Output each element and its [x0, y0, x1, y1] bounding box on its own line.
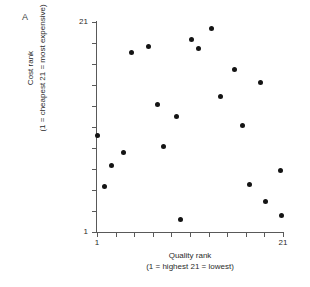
data-point [240, 123, 245, 128]
data-point [129, 50, 134, 55]
y-axis-tick [92, 64, 96, 65]
y-axis-tick [92, 190, 96, 191]
x-axis-tick [116, 233, 117, 237]
x-axis-tick [227, 233, 228, 237]
scatter-plot-figure: A 21 1 1 21 Cost rank (1 = cheapest 21 =… [0, 0, 310, 287]
data-point [174, 114, 179, 119]
data-point [95, 133, 100, 138]
data-point [218, 94, 223, 99]
data-point [146, 44, 151, 49]
y-axis-tick [92, 232, 96, 233]
x-axis-tick [246, 233, 247, 237]
x-axis-tick-label-min: 1 [87, 238, 107, 247]
y-axis-tick [92, 43, 96, 44]
y-axis-tick [92, 106, 96, 107]
y-axis-tick [92, 169, 96, 170]
data-point [247, 182, 252, 187]
x-axis-tick [153, 233, 154, 237]
x-axis-title-sub: (1 = highest 21 = lowest) [97, 261, 283, 272]
x-axis-tick [134, 233, 135, 237]
data-point [209, 26, 214, 31]
x-axis-tick [171, 233, 172, 237]
y-axis-tick [92, 148, 96, 149]
data-point [109, 163, 114, 168]
data-point [155, 102, 160, 107]
x-axis-tick [190, 233, 191, 237]
y-axis-tick [92, 127, 96, 128]
y-axis-title-main: Cost rank [25, 0, 37, 143]
y-axis-title-sub: (1 = cheapest 21 = most expensive) [37, 0, 49, 143]
data-point [189, 37, 194, 42]
x-axis-tick [264, 233, 265, 237]
y-axis-tick [92, 22, 96, 23]
x-axis-title-main: Quality rank [97, 250, 283, 261]
data-point [121, 150, 126, 155]
x-axis-title: Quality rank (1 = highest 21 = lowest) [97, 250, 283, 272]
data-point [102, 184, 107, 189]
x-axis-tick-label-max: 21 [273, 238, 293, 247]
plot-area [97, 22, 283, 232]
data-point [178, 217, 183, 222]
y-axis-tick-label-max: 21 [62, 17, 88, 26]
data-point [263, 199, 268, 204]
data-point [258, 80, 263, 85]
y-axis-tick [92, 85, 96, 86]
data-point [232, 67, 237, 72]
y-axis-tick [92, 211, 96, 212]
data-point [196, 46, 201, 51]
x-axis-tick [97, 233, 98, 237]
y-axis-tick-label-min: 1 [62, 227, 88, 236]
x-axis-tick [209, 233, 210, 237]
x-axis-tick [283, 233, 284, 237]
data-point [279, 213, 284, 218]
data-point [278, 168, 283, 173]
data-point [161, 144, 166, 149]
y-axis-title: Cost rank (1 = cheapest 21 = most expens… [25, 0, 49, 143]
